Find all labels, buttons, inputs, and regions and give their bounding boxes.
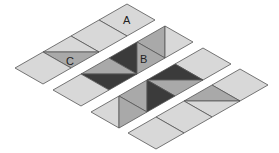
- label-c: C: [66, 55, 74, 67]
- label-a: A: [123, 14, 131, 26]
- isometric-strips-diagram: A C B: [0, 0, 279, 153]
- strip-2-cell-1-right: [165, 26, 193, 58]
- strip-3-cell-4-left: [91, 96, 119, 128]
- label-b: B: [140, 53, 147, 65]
